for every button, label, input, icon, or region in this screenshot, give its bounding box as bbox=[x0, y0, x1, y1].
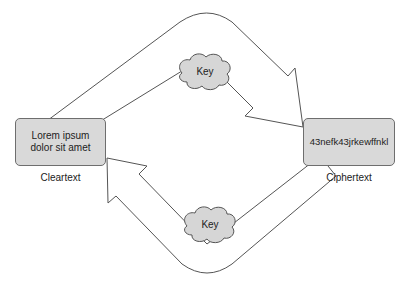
cleartext-label: Cleartext bbox=[15, 172, 106, 183]
top-key-label: Key bbox=[185, 66, 225, 77]
cleartext-box: Lorem ipsum dolor sit amet bbox=[15, 118, 106, 166]
ciphertext-content: 43nefk43jrkewffnkl bbox=[310, 136, 389, 148]
cleartext-content-line1: Lorem ipsum bbox=[30, 130, 90, 142]
ciphertext-label: Ciphertext bbox=[303, 172, 395, 183]
bottom-key-label: Key bbox=[190, 219, 230, 230]
cleartext-content-line2: dolor sit amet bbox=[30, 142, 90, 154]
ciphertext-box: 43nefk43jrkewffnkl bbox=[303, 118, 395, 166]
